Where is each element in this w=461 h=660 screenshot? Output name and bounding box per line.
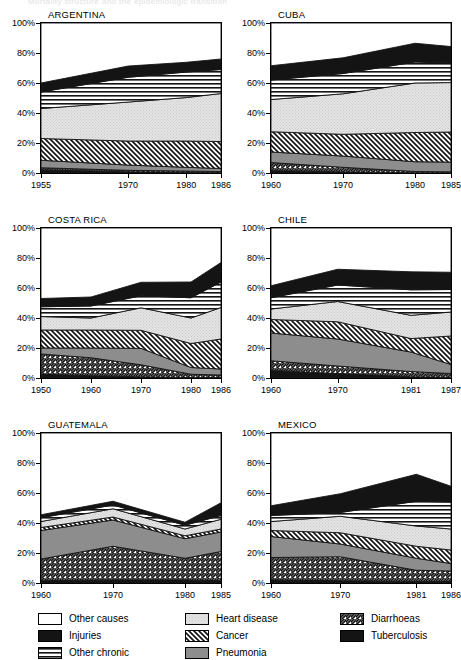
y-tick-label: 0% bbox=[252, 169, 265, 178]
y-tick-label: 0% bbox=[252, 374, 265, 383]
y-tick-label: 80% bbox=[17, 459, 35, 468]
y-tick-label: 40% bbox=[247, 314, 265, 323]
y-axis: 0%20%40%60%80%100% bbox=[0, 227, 40, 381]
legend-swatch-pneumonia bbox=[185, 647, 209, 659]
stacked-area-svg bbox=[271, 228, 451, 378]
x-tick-label: 1970 bbox=[328, 385, 348, 395]
legend-label: Other causes bbox=[69, 613, 128, 625]
plot-area bbox=[270, 22, 452, 174]
x-tick-mark bbox=[41, 379, 42, 383]
x-tick-label: 1981 bbox=[406, 590, 426, 600]
x-tick-mark bbox=[91, 379, 92, 383]
y-tick-label: 40% bbox=[247, 109, 265, 118]
y-tick-label: 20% bbox=[247, 344, 265, 353]
x-tick-mark bbox=[185, 584, 186, 588]
y-axis: 0%20%40%60%80%100% bbox=[230, 432, 270, 586]
y-tick-label: 60% bbox=[17, 79, 35, 88]
y-tick-label: 100% bbox=[242, 224, 265, 233]
y-tick-label: 100% bbox=[242, 19, 265, 28]
x-tick-label: 1980 bbox=[181, 385, 201, 395]
stacked-area-svg bbox=[41, 433, 221, 583]
plot-area bbox=[40, 432, 222, 584]
y-tick-label: 100% bbox=[242, 429, 265, 438]
panel-title: CUBA bbox=[278, 9, 305, 20]
x-tick-label: 1980 bbox=[176, 180, 196, 190]
legend-swatch-other_chronic bbox=[38, 647, 62, 659]
y-tick-label: 60% bbox=[247, 489, 265, 498]
y-axis: 0%20%40%60%80%100% bbox=[230, 227, 270, 381]
y-axis: 0%20%40%60%80%100% bbox=[0, 432, 40, 586]
x-tick-label: 1986 bbox=[211, 385, 231, 395]
x-tick-label: 1955 bbox=[31, 180, 51, 190]
legend-label: Pneumonia bbox=[216, 647, 267, 659]
stacked-area-svg bbox=[41, 228, 221, 378]
y-tick-label: 40% bbox=[17, 314, 35, 323]
y-tick-label: 80% bbox=[247, 459, 265, 468]
x-tick-mark bbox=[340, 584, 341, 588]
legend-swatch-cancer bbox=[185, 630, 209, 642]
x-tick-mark bbox=[41, 584, 42, 588]
y-axis: 0%20%40%60%80%100% bbox=[0, 22, 40, 176]
plot-frame bbox=[270, 227, 452, 379]
x-tick-mark bbox=[128, 174, 129, 178]
y-tick-label: 100% bbox=[12, 429, 35, 438]
plot-area bbox=[40, 22, 222, 174]
panel-title: MEXICO bbox=[278, 419, 317, 430]
x-tick-label: 1970 bbox=[330, 590, 350, 600]
x-tick-mark bbox=[415, 174, 416, 178]
stacked-area-svg bbox=[41, 23, 221, 173]
plot-area bbox=[40, 227, 222, 379]
y-tick-label: 40% bbox=[17, 109, 35, 118]
chart-panel: COSTA RICA0%20%40%60%80%100% 19501960197… bbox=[0, 214, 230, 419]
y-tick-label: 20% bbox=[247, 139, 265, 148]
x-tick-mark bbox=[451, 584, 452, 588]
x-tick-mark bbox=[338, 379, 339, 383]
y-tick-label: 80% bbox=[17, 49, 35, 58]
legend-swatch-heart_disease bbox=[185, 613, 209, 625]
legend-label: Diarrhoeas bbox=[371, 613, 420, 625]
panel-grid: ARGENTINA0%20%40%60%80%100% 195519701980… bbox=[0, 9, 460, 610]
plot-area bbox=[270, 432, 452, 584]
x-axis: 19501960197019801986 bbox=[40, 379, 222, 401]
x-tick-label: 1986 bbox=[441, 590, 461, 600]
y-tick-label: 0% bbox=[22, 169, 35, 178]
x-tick-label: 1960 bbox=[261, 590, 281, 600]
x-tick-mark bbox=[221, 174, 222, 178]
x-tick-label: 1985 bbox=[211, 590, 231, 600]
x-tick-mark bbox=[411, 379, 412, 383]
legend-label: Heart disease bbox=[216, 613, 278, 625]
x-tick-mark bbox=[141, 379, 142, 383]
panel-title: CHILE bbox=[278, 214, 307, 225]
legend-label: Other chronic bbox=[69, 647, 129, 659]
chart-panel: CHILE0%20%40%60%80%100% 1960197019811987 bbox=[230, 214, 460, 419]
y-tick-label: 0% bbox=[22, 579, 35, 588]
y-tick-label: 100% bbox=[12, 224, 35, 233]
x-tick-label: 1981 bbox=[401, 385, 421, 395]
plot-frame bbox=[270, 22, 452, 174]
chart-panel: GUATEMALA0%20%40%60%80%100% 196019701980… bbox=[0, 419, 230, 624]
x-tick-label: 1960 bbox=[261, 385, 281, 395]
x-tick-mark bbox=[451, 174, 452, 178]
x-tick-label: 1980 bbox=[405, 180, 425, 190]
y-tick-label: 60% bbox=[17, 489, 35, 498]
y-tick-label: 40% bbox=[17, 519, 35, 528]
panel-title: ARGENTINA bbox=[48, 9, 105, 20]
x-tick-mark bbox=[271, 379, 272, 383]
y-tick-label: 60% bbox=[247, 284, 265, 293]
plot-frame bbox=[40, 432, 222, 584]
x-tick-label: 1970 bbox=[118, 180, 138, 190]
x-tick-label: 1980 bbox=[175, 590, 195, 600]
x-tick-label: 1960 bbox=[81, 385, 101, 395]
y-axis: 0%20%40%60%80%100% bbox=[230, 22, 270, 176]
legend-swatch-diarrhoeas bbox=[340, 613, 364, 625]
x-tick-label: 1986 bbox=[211, 180, 231, 190]
x-tick-mark bbox=[271, 584, 272, 588]
y-tick-label: 80% bbox=[17, 254, 35, 263]
x-axis: 1960197019801985 bbox=[270, 174, 452, 196]
x-tick-mark bbox=[186, 174, 187, 178]
x-tick-mark bbox=[41, 174, 42, 178]
x-axis: 1960197019811986 bbox=[270, 584, 452, 606]
y-tick-label: 0% bbox=[252, 579, 265, 588]
y-tick-label: 20% bbox=[17, 344, 35, 353]
x-tick-label: 1960 bbox=[261, 180, 281, 190]
